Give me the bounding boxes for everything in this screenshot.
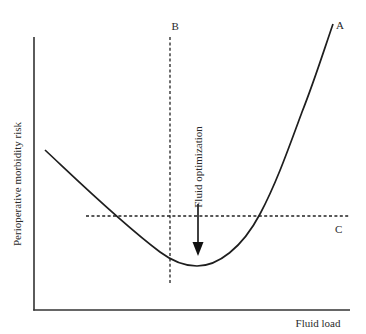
fluid-optimization-label: Fluid optimization — [192, 126, 204, 208]
down-arrow-icon — [193, 242, 204, 256]
x-axis-label: Fluid load — [296, 317, 341, 329]
y-axis-label: Perioperative morbidity risk — [11, 121, 23, 246]
diagram-canvas: B C A Fluid optimization Perioperative m… — [0, 0, 366, 334]
reference-line-b-label: B — [172, 20, 179, 32]
risk-curve-a-label: A — [336, 19, 344, 31]
fluid-risk-diagram: B C A Fluid optimization Perioperative m… — [0, 0, 366, 334]
reference-line-c-label: C — [335, 223, 342, 235]
risk-curve-a — [45, 24, 333, 266]
